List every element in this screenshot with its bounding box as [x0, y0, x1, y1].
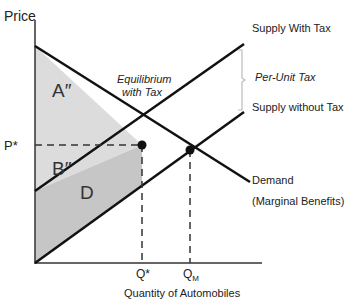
demand-label: Demand	[252, 174, 294, 186]
per-unit-tax-label: Per-Unit Tax	[255, 71, 316, 83]
equilibrium-with-tax-label-line2: with Tax	[117, 86, 167, 98]
supply-without-tax-label: Supply without Tax	[252, 101, 344, 113]
equilibrium-with-tax-label-line1: Equilibrium	[117, 73, 167, 85]
per-unit-tax-bracket	[238, 50, 245, 110]
y-axis-label: Price	[4, 8, 36, 24]
region-d-label: D	[80, 182, 94, 204]
market-equilibrium-point	[186, 146, 195, 155]
region-b-label: B″	[52, 158, 71, 180]
equilibrium-with-tax-point	[138, 141, 147, 150]
q-market-label: QM	[183, 267, 199, 283]
q-star-label: Q*	[136, 267, 150, 281]
demand-sub-label: (Marginal Benefits)	[252, 195, 344, 207]
q-market-subscript: M	[192, 274, 199, 283]
q-market-main: Q	[183, 267, 192, 281]
p-star-label: P*	[4, 138, 18, 153]
supply-with-tax-label: Supply With Tax	[252, 22, 331, 34]
region-a-label: A″	[52, 80, 71, 102]
supply-demand-diagram	[0, 0, 350, 304]
x-axis-label: Quantity of Automobiles	[124, 287, 240, 299]
